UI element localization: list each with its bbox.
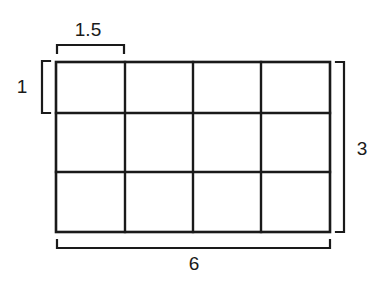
grid-vertical-lines (125, 62, 261, 232)
dimension-label-cell-width: 1.5 (60, 20, 116, 39)
diagram-canvas (0, 0, 382, 281)
bracket-total-width-path (57, 240, 330, 248)
bracket-total-height-path (336, 62, 344, 232)
bracket-cell-width-path (57, 45, 124, 53)
dimension-label-total-height: 3 (350, 139, 374, 158)
bracket-cell-width (57, 45, 124, 53)
bracket-total-height (336, 62, 344, 232)
geometry-diagram: 1.5 1 3 6 (0, 0, 382, 281)
bracket-cell-height (42, 61, 50, 113)
bracket-total-width (57, 240, 330, 248)
dimension-label-cell-height: 1 (10, 77, 34, 96)
bracket-cell-height-path (42, 61, 50, 113)
dimension-label-total-width: 6 (166, 254, 222, 273)
